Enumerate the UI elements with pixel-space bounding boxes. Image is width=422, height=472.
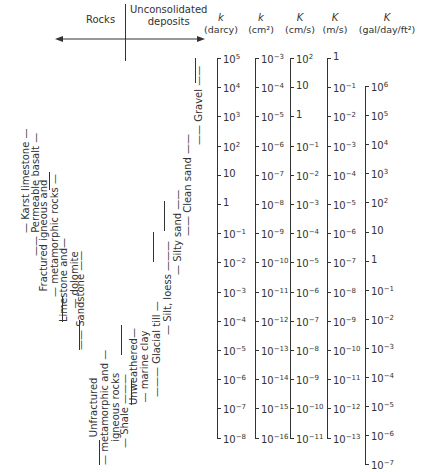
scale-tick-label: 10−11 <box>333 373 361 386</box>
scale-tick-label: 10−7 <box>223 402 246 415</box>
scale-tick <box>217 350 221 351</box>
scale-tick <box>255 116 259 117</box>
label-sandstone: —— Sandstone —— <box>75 251 86 350</box>
scale-tick <box>290 87 294 88</box>
scale-tick-label: 10−6 <box>296 286 319 299</box>
scale-tick <box>255 321 259 322</box>
scale-tick-label: 10−3 <box>371 342 394 355</box>
scale-tick-label: 10−4 <box>371 371 394 384</box>
scale-tick <box>327 204 331 205</box>
scale-tick <box>290 233 294 234</box>
range-line-marine-clay <box>131 380 132 405</box>
label-clean-sand: —— Clean sand —— <box>182 134 193 236</box>
scale-tick <box>255 350 259 351</box>
scale-tick <box>365 261 369 262</box>
scale-tick <box>217 438 221 439</box>
scale-tick-label: 102 <box>371 196 388 209</box>
range-line-sandstone <box>79 320 80 350</box>
scale-tick <box>255 233 259 234</box>
scale-tick-label: 10−8 <box>223 432 246 445</box>
scale-tick <box>365 377 369 378</box>
scale-tick <box>290 175 294 176</box>
unconsolidated-header-line2: deposits <box>130 16 207 28</box>
scale-tick-label: 10−8 <box>296 344 319 357</box>
scale-tick-label: 10−1 <box>333 81 356 94</box>
scale-tick <box>290 292 294 293</box>
scale-tick-label: 10−9 <box>261 227 284 240</box>
label-glacial-till: ——— Glacial till — <box>151 301 162 397</box>
range-line-unfractured <box>99 440 100 465</box>
scale-tick-label: 10−5 <box>223 344 246 357</box>
scale-tick <box>255 292 259 293</box>
scale-tick <box>217 292 221 293</box>
scale-tick-label: 10−1 <box>296 140 319 153</box>
scale-tick-label: 10−5 <box>371 400 394 413</box>
scale-tick-label: 103 <box>371 167 388 180</box>
scale-tick <box>327 350 331 351</box>
scale-tick <box>255 58 259 59</box>
scale-tick <box>255 408 259 409</box>
scale-tick <box>327 262 331 263</box>
scale-tick <box>327 379 331 380</box>
scale-tick-label: 10−5 <box>296 256 319 269</box>
col-header-gal: K(gal/day/ft²) <box>352 12 422 36</box>
scale-tick <box>327 146 331 147</box>
category-divider <box>125 4 126 61</box>
arrow-right-icon <box>197 36 205 42</box>
scale-tick <box>365 290 369 291</box>
scale-tick <box>290 379 294 380</box>
scale-tick <box>217 175 221 176</box>
scale-tick <box>290 116 294 117</box>
scale-tick <box>290 321 294 322</box>
scale-tick-label: 10−7 <box>333 256 356 269</box>
scale-axis-gal <box>365 86 366 464</box>
scale-tick-label: 10−9 <box>296 373 319 386</box>
scale-tick-label: 10−7 <box>371 458 394 471</box>
scale-tick <box>365 406 369 407</box>
rocks-header: Rocks <box>86 14 115 25</box>
scale-tick <box>217 233 221 234</box>
scale-tick <box>365 435 369 436</box>
scale-tick-label: 10 <box>223 169 236 179</box>
scale-tick-label: 10−2 <box>296 169 319 182</box>
scale-tick-label: 102 <box>223 140 240 153</box>
scale-tick <box>365 173 369 174</box>
range-line-silty-sand <box>164 201 165 231</box>
scale-tick <box>217 321 221 322</box>
scale-tick <box>217 408 221 409</box>
scale-tick <box>327 58 331 59</box>
scale-tick <box>365 348 369 349</box>
scale-tick <box>290 408 294 409</box>
category-arrow <box>55 34 205 44</box>
scale-tick-label: 10 <box>371 226 384 236</box>
scale-tick-label: 104 <box>223 81 240 94</box>
scale-tick <box>327 233 331 234</box>
scale-tick-label: 10−10 <box>261 256 289 269</box>
col-header-darcy: k(darcy) <box>204 12 238 36</box>
scale-tick-label: 10−5 <box>333 198 356 211</box>
range-line-silt-loess <box>153 232 154 262</box>
scale-axis-ms <box>327 58 328 438</box>
range-line-limestone <box>62 296 63 322</box>
label-fractured-igneous-metamorphic: Fractured igneous and — metamorphic rock… <box>38 174 60 297</box>
scale-tick <box>365 144 369 145</box>
scale-tick-label: 10−4 <box>223 315 246 328</box>
scale-tick <box>255 204 259 205</box>
scale-tick-label: 1 <box>333 52 339 62</box>
scale-tick-label: 10−9 <box>333 315 356 328</box>
scale-tick-label: 10−7 <box>261 169 284 182</box>
scale-tick-label: 10−7 <box>296 315 319 328</box>
scale-axis-cm2 <box>255 58 256 438</box>
scale-tick-label: 10−3 <box>223 286 246 299</box>
scale-tick <box>290 350 294 351</box>
scale-tick-label: 1 <box>371 255 377 265</box>
col-header-ms: K(m/s) <box>318 12 352 36</box>
scale-tick-label: 10−2 <box>371 313 394 326</box>
scale-axis-cms <box>290 58 291 438</box>
scale-tick <box>327 116 331 117</box>
scale-tick <box>217 87 221 88</box>
scale-tick <box>290 262 294 263</box>
scale-tick-label: 105 <box>223 52 240 65</box>
scale-tick <box>217 379 221 380</box>
scale-tick-label: 1 <box>296 110 302 120</box>
